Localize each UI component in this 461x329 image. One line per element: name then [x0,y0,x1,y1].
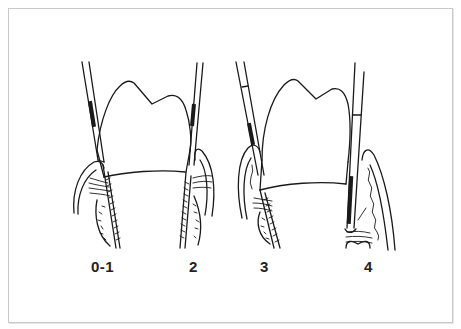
tooth-left [97,81,191,177]
probe-stage-4 [345,63,364,232]
tooth-right [260,79,350,190]
label-stage-3: 3 [260,258,269,275]
gingiva-stage-2 [180,149,214,248]
gingiva-stage-3 [238,145,280,248]
label-stage-2: 2 [189,258,198,275]
gingiva-stage-0-1 [74,161,120,248]
label-stage-0-1: 0-1 [91,258,114,275]
periodontal-diagram [0,0,461,329]
probe-stage-0-1 [82,62,104,162]
label-stage-4: 4 [364,258,373,275]
probe-stage-3 [236,62,264,175]
gingiva-stage-4 [346,150,395,250]
